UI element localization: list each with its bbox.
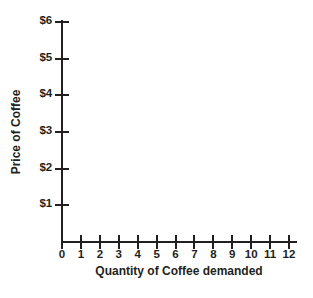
y-axis-tick-label-wrap: $3 xyxy=(0,124,52,138)
x-axis-tick-label: 12 xyxy=(283,248,296,260)
x-axis-tick-label: 5 xyxy=(153,248,159,260)
y-axis-tick xyxy=(55,131,69,133)
x-axis-tick xyxy=(61,235,63,249)
x-axis-tick xyxy=(99,235,101,249)
x-axis-tick-label: 6 xyxy=(172,248,178,260)
x-axis-line xyxy=(61,241,297,243)
y-axis-tick-label: $4 xyxy=(0,87,52,99)
y-axis-tick-label: $1 xyxy=(0,197,52,209)
x-axis-tick-label: 11 xyxy=(264,248,276,260)
x-axis-tick-label: 1 xyxy=(78,248,84,260)
x-axis-tick xyxy=(80,235,82,249)
y-axis-tick-label: $3 xyxy=(0,124,52,136)
y-axis-tick xyxy=(55,58,69,60)
x-axis-tick xyxy=(231,235,233,249)
x-axis-tick-label: 9 xyxy=(229,248,235,260)
x-axis-tick-label: 7 xyxy=(191,248,197,260)
y-axis-tick xyxy=(55,204,69,206)
y-axis-tick-label: $2 xyxy=(0,161,52,173)
x-axis-tick xyxy=(137,235,139,249)
y-axis-tick-label: $6 xyxy=(0,14,52,26)
y-axis-tick xyxy=(55,94,69,96)
x-axis-tick-label: 2 xyxy=(97,248,103,260)
y-axis-tick xyxy=(55,21,69,23)
y-axis-tick-label: $5 xyxy=(0,51,52,63)
x-axis-tick xyxy=(156,235,158,249)
x-axis-tick-label: 4 xyxy=(134,248,140,260)
y-axis-tick-label-wrap: $5 xyxy=(0,51,52,65)
x-axis-tick xyxy=(288,235,290,249)
y-axis-tick-label-wrap: $4 xyxy=(0,87,52,101)
x-axis-tick-label: 10 xyxy=(245,248,258,260)
x-axis-tick-label: 0 xyxy=(59,248,65,260)
coffee-demand-chart: $1$2$3$4$5$6 0123456789101112 Price of C… xyxy=(0,0,313,298)
x-axis-tick xyxy=(212,235,214,249)
plot-area[interactable] xyxy=(63,20,297,241)
x-axis-tick xyxy=(250,235,252,249)
x-axis-tick xyxy=(193,235,195,249)
y-axis-tick-label-wrap: $1 xyxy=(0,197,52,211)
x-axis-tick-label: 3 xyxy=(116,248,122,260)
x-axis-tick xyxy=(269,235,271,249)
x-axis-tick xyxy=(175,235,177,249)
y-axis-tick-label-wrap: $6 xyxy=(0,14,52,28)
y-axis-tick xyxy=(55,168,69,170)
x-axis-title: Quantity of Coffee demanded xyxy=(61,264,297,278)
y-axis-title: Price of Coffee xyxy=(9,82,23,182)
x-axis-tick xyxy=(118,235,120,249)
y-axis-tick-label-wrap: $2 xyxy=(0,161,52,175)
x-axis-tick-label: 8 xyxy=(210,248,216,260)
